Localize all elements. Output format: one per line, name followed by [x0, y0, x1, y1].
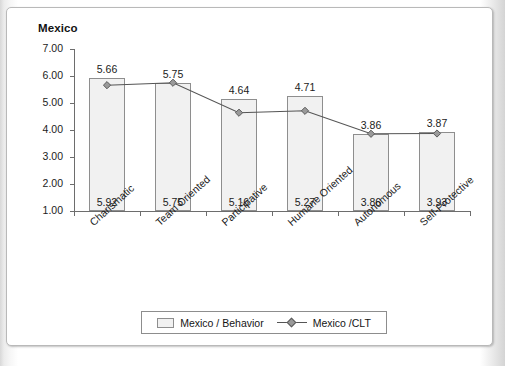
- x-tick: [206, 211, 207, 216]
- y-tick: 5.00: [70, 103, 75, 104]
- line-value-label: 4.64: [229, 84, 249, 96]
- y-tick: 7.00: [70, 49, 75, 50]
- plot-area: 7.006.005.004.003.002.001.00 5.925.755.1…: [74, 49, 469, 211]
- x-tick: [338, 211, 339, 216]
- y-tick: 4.00: [70, 130, 75, 131]
- y-tick-label: 4.00: [43, 123, 63, 135]
- y-tick: 3.00: [70, 157, 75, 158]
- x-tick: [272, 211, 273, 216]
- line-value-label: 3.86: [361, 119, 381, 131]
- line-value-label: 5.75: [163, 68, 183, 80]
- legend-entry-clt: Mexico /CLT: [277, 317, 371, 329]
- y-tick: 2.00: [70, 184, 75, 185]
- y-tick-label: 7.00: [43, 42, 63, 54]
- x-tick: [140, 211, 141, 216]
- y-tick-label: 1.00: [43, 204, 63, 216]
- line-value-label: 4.71: [295, 81, 315, 93]
- chart-panel: Mexico 7.006.005.004.003.002.001.00 5.92…: [6, 7, 493, 346]
- x-tick: [470, 211, 471, 216]
- y-tick-label: 6.00: [43, 69, 63, 81]
- legend-label-clt: Mexico /CLT: [313, 317, 371, 329]
- chart-screenshot: Mexico 7.006.005.004.003.002.001.00 5.92…: [0, 0, 505, 366]
- y-tick-label: 5.00: [43, 96, 63, 108]
- chart-area: Mexico 7.006.005.004.003.002.001.00 5.92…: [7, 8, 492, 345]
- legend-entry-behavior: Mexico / Behavior: [157, 317, 263, 329]
- y-tick-label: 2.00: [43, 177, 63, 189]
- bar-swatch-icon: [157, 318, 174, 328]
- line-value-label: 5.66: [97, 63, 117, 75]
- y-tick-label: 3.00: [43, 150, 63, 162]
- line-value-label: 3.87: [427, 117, 447, 129]
- x-tick: [404, 211, 405, 216]
- x-tick: [74, 211, 75, 216]
- line-swatch-icon: [277, 318, 307, 327]
- chart-title: Mexico: [38, 22, 78, 34]
- legend-label-behavior: Mexico / Behavior: [180, 317, 263, 329]
- y-tick: 6.00: [70, 76, 75, 77]
- chart-legend: Mexico / Behavior Mexico /CLT: [141, 311, 387, 334]
